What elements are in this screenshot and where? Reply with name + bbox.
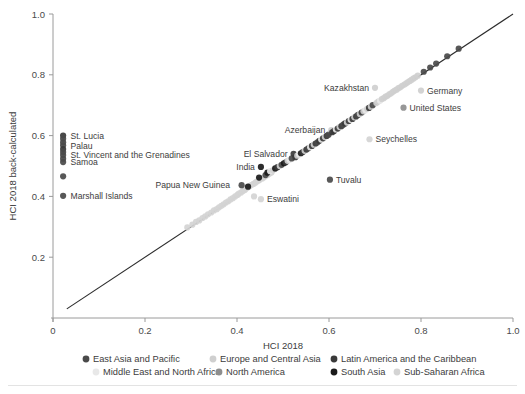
legend-marker [216, 369, 223, 376]
x-tick-label: 0.6 [322, 325, 335, 336]
legend-label[interactable]: Europe and Central Asia [220, 354, 322, 364]
x-tick-label: 0.4 [230, 325, 243, 336]
legend-label[interactable]: Middle East and North Africa [103, 367, 222, 377]
legend-marker [394, 369, 401, 376]
data-point [239, 182, 245, 188]
data-point [421, 69, 427, 75]
point-annotation-label: Eswatini [267, 194, 299, 204]
data-point [400, 105, 406, 111]
legend-marker [83, 356, 90, 363]
data-point [327, 177, 333, 183]
x-axis-title: HCI 2018 [263, 340, 303, 351]
x-tick-label: 1.0 [506, 325, 519, 336]
data-point [258, 164, 264, 170]
bottom-separator [8, 385, 517, 386]
x-tick-label: 0 [50, 325, 55, 336]
legend-label[interactable]: North America [226, 367, 286, 377]
data-point [415, 73, 421, 79]
legend-marker [93, 369, 100, 376]
point-annotation-label: United States [410, 103, 462, 113]
scatter-chart-figure: 00.20.40.60.81.00.20.40.60.81.0 St. Luci… [0, 0, 525, 394]
y-tick-label: 1.0 [32, 9, 45, 20]
y-axis-title: HCI 2018 back-calculated [7, 112, 18, 221]
point-annotation-label: Kazakhstan [324, 83, 369, 93]
point-annotation-label: India [236, 162, 255, 172]
y-tick-label: 0.8 [32, 69, 45, 80]
data-point [427, 64, 433, 70]
plot-canvas: 00.20.40.60.81.00.20.40.60.81.0 St. Luci… [0, 0, 525, 394]
legend-marker [331, 369, 338, 376]
legend-group: East Asia and PacificEurope and Central … [83, 354, 486, 377]
data-point [60, 193, 66, 199]
data-point [366, 136, 372, 142]
data-point [418, 88, 424, 94]
data-point [456, 46, 462, 52]
data-point [372, 85, 378, 91]
legend-label[interactable]: Sub-Saharan Africa [404, 367, 485, 377]
data-point [256, 174, 262, 180]
point-annotation-label: Germany [427, 86, 463, 96]
point-annotations-group: St. LuciaPalauSt. Vincent and the Grenad… [71, 83, 464, 204]
data-point [60, 159, 66, 165]
point-annotation-label: Samoa [71, 157, 98, 167]
x-tick-label: 0.2 [138, 325, 151, 336]
legend-label[interactable]: Latin America and the Caribbean [341, 354, 476, 364]
x-tick-label: 0.8 [414, 325, 427, 336]
point-annotation-label: Seychelles [375, 134, 417, 144]
point-annotation-label: El Salvador [244, 149, 288, 159]
point-annotation-label: Tuvalu [336, 175, 362, 185]
data-point [245, 184, 251, 190]
y-tick-label: 0.4 [32, 191, 45, 202]
point-annotation-label: Papua New Guinea [156, 180, 231, 190]
point-annotation-label: Marshall Islands [71, 191, 133, 201]
data-point [251, 193, 257, 199]
legend-label[interactable]: East Asia and Pacific [93, 354, 180, 364]
point-annotation-label: Azerbaijan [285, 125, 326, 135]
legend-marker [331, 356, 338, 363]
data-point [60, 173, 66, 179]
data-point [444, 53, 450, 59]
legend-marker [210, 356, 217, 363]
data-point [433, 60, 439, 66]
y-tick-label: 0.6 [32, 130, 45, 141]
y-tick-label: 0.2 [32, 252, 45, 263]
data-point [258, 196, 264, 202]
legend-label[interactable]: South Asia [341, 367, 386, 377]
axis-titles-group: HCI 2018HCI 2018 back-calculated [7, 112, 303, 351]
